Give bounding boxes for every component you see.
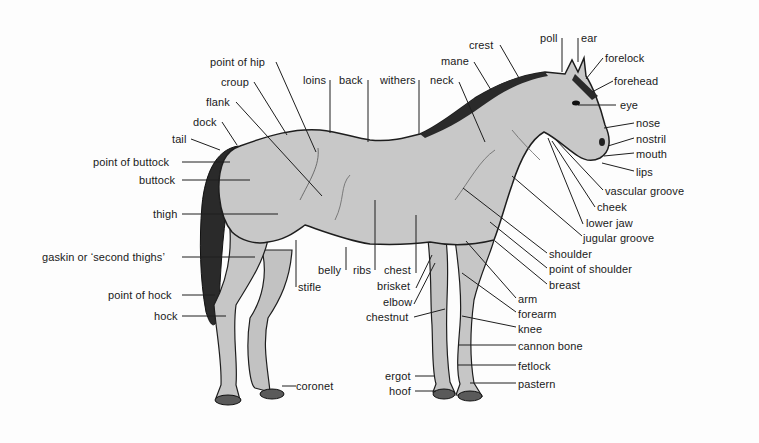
label-crest: crest [469, 39, 493, 51]
horse-body [219, 58, 609, 245]
label-ergot: ergot [385, 370, 411, 382]
label-cannon-bone: cannon bone [518, 340, 583, 352]
label-point-of-buttock: point of buttock [93, 156, 169, 168]
label-coronet: coronet [296, 380, 333, 392]
label-brisket: brisket [377, 280, 410, 292]
nostril [599, 138, 605, 146]
front-leg-far [428, 240, 455, 393]
label-forearm: forearm [518, 308, 557, 320]
label-knee: knee [518, 323, 542, 335]
hoof-front-near [458, 391, 482, 401]
label-vascular-groove: vascular groove [605, 185, 684, 197]
label-point-of-hock: point of hock [108, 289, 172, 301]
label-neck: neck [430, 74, 454, 86]
label-chest: chest [384, 264, 411, 276]
label-nose: nose [636, 117, 660, 129]
label-shoulder: shoulder [549, 248, 592, 260]
label-breast: breast [549, 279, 580, 291]
label-eye: eye [620, 99, 638, 111]
label-mouth: mouth [636, 148, 667, 160]
label-forehead: forehead [614, 75, 658, 87]
label-ear: ear [581, 32, 597, 44]
label-jugular-groove: jugular groove [583, 232, 654, 244]
label-stifle: stifle [298, 281, 321, 293]
label-hock: hock [154, 310, 178, 322]
label-loins: loins [303, 74, 326, 86]
label-elbow: elbow [383, 296, 412, 308]
label-croup: croup [221, 76, 249, 88]
label-withers: withers [380, 74, 416, 86]
label-forelock: forelock [605, 52, 644, 64]
label-hoof: hoof [389, 385, 411, 397]
label-chestnut: chestnut [366, 311, 408, 323]
label-belly: belly [318, 264, 341, 276]
label-nostril: nostril [636, 133, 666, 145]
label-flank: flank [206, 96, 230, 108]
hoof-hind-far [260, 389, 284, 399]
label-pastern: pastern [518, 378, 555, 390]
label-lips: lips [636, 166, 653, 178]
label-buttock: buttock [139, 174, 175, 186]
label-arm: arm [518, 293, 537, 305]
hoof-hind-near [215, 395, 241, 405]
label-cheek: cheek [597, 201, 627, 213]
front-leg-near [455, 240, 494, 396]
label-ribs: ribs [353, 264, 371, 276]
label-point-of-shoulder: point of shoulder [549, 263, 632, 275]
horse-illustration [0, 0, 759, 443]
label-thigh: thigh [153, 208, 177, 220]
hoof-front-far [433, 389, 455, 399]
label-poll: poll [540, 32, 558, 44]
label-dock: dock [193, 116, 217, 128]
label-point-of-hip: point of hip [210, 56, 265, 68]
label-fetlock: fetlock [518, 360, 551, 372]
label-back: back [339, 74, 363, 86]
label-mane: mane [441, 55, 469, 67]
label-tail: tail [172, 133, 186, 145]
label-lower-jaw: lower jaw [586, 217, 633, 229]
label-gaskin: gaskin or ‘second thighs’ [42, 251, 165, 263]
horse-anatomy-diagram: point of hip croup flank dock tail point… [0, 0, 759, 443]
